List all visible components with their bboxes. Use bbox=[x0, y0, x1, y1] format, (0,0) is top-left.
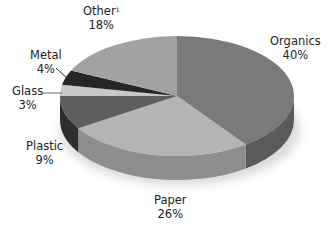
label-glass: Glass 3% bbox=[12, 84, 43, 112]
pie-top-face bbox=[60, 36, 294, 156]
label-other-pct: 18% bbox=[88, 18, 114, 32]
label-paper-pct: 26% bbox=[158, 207, 184, 221]
label-plastic-name: Plastic bbox=[26, 139, 63, 153]
label-plastic: Plastic 9% bbox=[26, 139, 63, 167]
label-plastic-pct: 9% bbox=[35, 153, 53, 167]
label-metal-name: Metal bbox=[30, 48, 62, 62]
label-glass-name: Glass bbox=[12, 84, 43, 98]
label-organics: Organics 40% bbox=[270, 34, 321, 62]
label-paper-name: Paper bbox=[154, 193, 187, 207]
label-paper: Paper 26% bbox=[154, 193, 187, 221]
label-organics-name: Organics bbox=[270, 34, 321, 48]
label-other-name: Other bbox=[83, 4, 116, 18]
label-metal-pct: 4% bbox=[37, 62, 55, 76]
label-glass-pct: 3% bbox=[18, 98, 36, 112]
label-metal: Metal 4% bbox=[30, 48, 62, 76]
label-other: Other1 18% bbox=[83, 4, 119, 32]
footnote-marker: 1 bbox=[116, 6, 120, 13]
label-organics-pct: 40% bbox=[283, 48, 309, 62]
